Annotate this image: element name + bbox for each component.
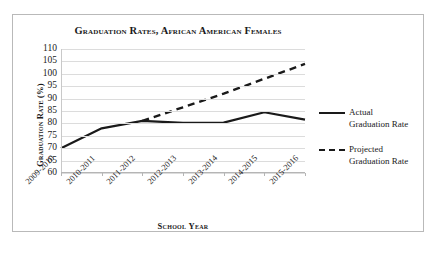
legend-label-actual: Actual Graduation Rate bbox=[349, 107, 423, 130]
y-axis-line bbox=[61, 49, 62, 173]
x-tick-mark bbox=[305, 173, 306, 176]
legend-swatch-solid-icon bbox=[319, 112, 345, 114]
gridline bbox=[61, 148, 305, 149]
y-tick-label: 110 bbox=[43, 44, 57, 54]
legend-label-actual-line2: Graduation Rate bbox=[349, 119, 423, 131]
x-tick-mark bbox=[224, 173, 225, 176]
y-tick-label: 80 bbox=[48, 119, 58, 129]
legend-item-actual: Actual Graduation Rate bbox=[319, 107, 423, 130]
chart-title: Graduation Rates, African American Femal… bbox=[13, 25, 343, 36]
y-tick-label: 90 bbox=[48, 94, 58, 104]
gridline bbox=[61, 161, 305, 162]
legend-label-actual-line1: Actual bbox=[349, 107, 423, 119]
chart-figure: Graduation Rates, African American Femal… bbox=[12, 14, 424, 232]
gridline bbox=[61, 136, 305, 137]
x-tick-mark bbox=[183, 173, 184, 176]
gridline bbox=[61, 61, 305, 62]
plot-area: 6065707580859095100105110 2009-20102010-… bbox=[61, 49, 305, 173]
y-tick-label: 100 bbox=[43, 69, 57, 79]
y-tick-label: 85 bbox=[48, 106, 58, 116]
x-axis-title: School Year bbox=[61, 221, 305, 231]
legend-label-projected-line2: Graduation Rate bbox=[349, 156, 423, 168]
gridline bbox=[61, 123, 305, 124]
x-tick-mark bbox=[264, 173, 265, 176]
gridline bbox=[61, 99, 305, 100]
y-tick-label: 60 bbox=[48, 168, 58, 178]
x-tick-mark bbox=[61, 173, 62, 176]
legend-item-projected: Projected Graduation Rate bbox=[319, 144, 423, 167]
gridline bbox=[61, 74, 305, 75]
gridline bbox=[61, 49, 305, 50]
legend-swatch-dashed-icon bbox=[319, 149, 345, 151]
series-line-actual-graduation-rate bbox=[61, 112, 305, 148]
y-tick-label: 95 bbox=[48, 81, 58, 91]
y-tick-label: 105 bbox=[43, 57, 57, 67]
chart-legend: Actual Graduation Rate Projected Graduat… bbox=[319, 107, 423, 181]
y-axis-title-label: Graduation Rate (%) bbox=[35, 83, 45, 166]
y-tick-label: 70 bbox=[48, 143, 58, 153]
y-tick-label: 75 bbox=[48, 131, 58, 141]
gridline bbox=[61, 86, 305, 87]
gridline bbox=[61, 111, 305, 112]
series-line-projected-graduation-rate bbox=[142, 64, 305, 121]
x-tick-mark bbox=[102, 173, 103, 176]
x-tick-mark bbox=[142, 173, 143, 176]
legend-label-projected-line1: Projected bbox=[349, 144, 423, 156]
legend-label-projected: Projected Graduation Rate bbox=[349, 144, 423, 167]
